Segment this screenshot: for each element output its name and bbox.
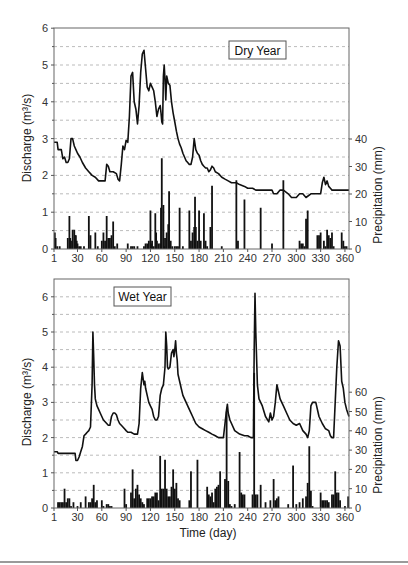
precipitation-bar <box>107 504 109 508</box>
precipitation-bar <box>80 502 82 508</box>
precipitation-bar <box>302 498 304 508</box>
x-tick-label: 180 <box>190 252 208 264</box>
x-tick-label: 120 <box>141 252 159 264</box>
precipitation-bar <box>299 502 301 508</box>
wet-legend: Wet Year <box>114 287 171 306</box>
precipitation-bar <box>62 502 64 508</box>
precipitation-bar <box>271 244 273 250</box>
precipitation-bar <box>323 241 325 249</box>
dry-left-axis-label: Discharge (m³/s) <box>20 94 34 183</box>
x-tick-label: 90 <box>120 252 132 264</box>
x-tick-label: 60 <box>96 511 108 523</box>
precipitation-bar <box>269 500 271 508</box>
precipitation-bar <box>146 498 148 508</box>
precipitation-bar <box>138 494 140 508</box>
precipitation-bar <box>65 502 67 508</box>
precipitation-bar <box>67 498 69 508</box>
left-tick-label: 3 <box>42 396 48 408</box>
x-tick-label: 150 <box>166 511 184 523</box>
precipitation-bar <box>342 241 344 249</box>
precipitation-bar <box>68 498 70 508</box>
precipitation-bar <box>325 500 327 508</box>
left-tick-label: 5 <box>42 326 48 338</box>
precipitation-bar <box>237 241 239 249</box>
precipitation-bar <box>320 493 322 508</box>
precipitation-bar <box>205 241 207 249</box>
precipitation-bar <box>101 241 103 249</box>
left-tick-label: 1 <box>42 467 48 479</box>
precipitation-bar <box>179 208 181 249</box>
precipitation-bar <box>101 500 103 508</box>
right-tick-label: 30 <box>355 444 367 456</box>
precipitation-bar <box>240 493 242 508</box>
x-tick-label: 240 <box>239 252 257 264</box>
precipitation-bar <box>329 238 331 249</box>
precipitation-bar <box>158 500 160 508</box>
precipitation-bar <box>239 452 241 508</box>
precipitation-bar <box>321 500 323 508</box>
precipitation-bar <box>106 216 108 249</box>
precipitation-bar <box>164 460 166 508</box>
precipitation-bar <box>90 235 92 249</box>
precipitation-bar <box>107 238 109 249</box>
precipitation-bar <box>229 504 231 508</box>
precipitation-bar <box>334 471 336 508</box>
precipitation-bar <box>339 500 341 508</box>
precipitation-bar <box>88 502 90 508</box>
precipitation-bar <box>235 180 237 249</box>
precipitation-bar <box>320 233 322 250</box>
x-tick-label: 90 <box>120 511 132 523</box>
dry-year-chart: 0123456 010203040 1306090120150180210240… <box>20 22 385 264</box>
precipitation-bar <box>308 446 310 508</box>
precipitation-bar <box>140 498 142 508</box>
precipitation-bar <box>206 487 208 508</box>
precipitation-bar <box>124 489 126 508</box>
left-tick-label: 1 <box>42 206 48 218</box>
precipitation-bar <box>177 498 179 508</box>
x-tick-label: 60 <box>96 252 108 264</box>
precipitation-bar <box>195 227 197 249</box>
left-tick-label: 0 <box>42 243 48 255</box>
precipitation-bar <box>72 230 74 249</box>
precipitation-bar <box>208 494 210 508</box>
precipitation-bar <box>94 502 96 508</box>
precipitation-bar <box>218 485 220 508</box>
right-tick-label: 20 <box>355 463 367 475</box>
precipitation-bar <box>167 496 169 508</box>
precipitation-bar <box>278 496 280 508</box>
x-tick-label: 30 <box>71 511 83 523</box>
precipitation-bar <box>59 502 61 508</box>
dry-right-axis: 010203040 <box>349 133 367 255</box>
wet-year-chart: 0123456 0102030405060 130609012015018021… <box>20 279 385 540</box>
right-tick-label: 10 <box>355 216 367 228</box>
wet-left-axis-label: Discharge (m³/s) <box>20 358 34 447</box>
right-tick-label: 0 <box>355 243 361 255</box>
precipitation-bar <box>203 213 205 249</box>
precipitation-bar <box>300 244 302 250</box>
precipitation-bar <box>197 460 199 508</box>
left-tick-label: 5 <box>42 59 48 71</box>
precipitation-bar <box>198 211 200 250</box>
left-tick-label: 6 <box>42 22 48 34</box>
precipitation-bar <box>91 498 93 508</box>
precipitation-bar <box>93 485 95 508</box>
precipitation-bar <box>260 485 262 508</box>
precipitation-bar <box>153 496 155 508</box>
precipitation-bar <box>328 235 330 249</box>
precipitation-bar <box>88 216 90 249</box>
precipitation-bar <box>104 241 106 249</box>
precipitation-bar <box>133 498 135 508</box>
precipitation-bar <box>125 504 127 508</box>
precipitation-bar <box>200 241 202 249</box>
x-tick-label: 1 <box>51 511 57 523</box>
precipitation-bar <box>336 493 338 508</box>
wet-right-axis-label: Precipitation (mm) <box>371 396 385 493</box>
x-tick-label: 270 <box>263 252 281 264</box>
precipitation-bar <box>190 241 192 249</box>
precipitation-bar <box>156 493 158 508</box>
precipitation-bar <box>169 496 171 508</box>
precipitation-bar <box>67 238 69 249</box>
precipitation-bar <box>305 219 307 249</box>
precipitation-bar <box>137 485 139 508</box>
x-tick-label: 330 <box>311 511 329 523</box>
